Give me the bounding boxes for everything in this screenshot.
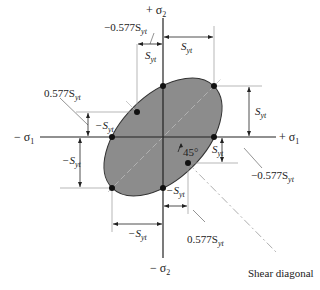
label-neg-syt-horizontal: −Syt [128,228,147,242]
label-neg-0577-top: −0.577Syt [104,22,147,36]
pos-sigma2-label: + σ2 [146,4,166,19]
label-syt-sigma1: Syt [212,144,223,158]
label-syt-top: Syt [181,41,192,55]
neg-sigma1-label: − σ1 [14,131,34,146]
label-neg-0577-right: −0.577Syt [251,170,294,184]
neg-sigma2-label: − σ2 [150,262,170,277]
pos-sigma1-label: + σ1 [279,131,299,146]
shear-diagonal-label: Shear diagonal [248,268,314,279]
label-syt-sigma2: Syt [145,50,156,64]
label-0577-bottom: 0.577Syt [187,234,224,248]
label-0577-left: 0.577Syt [44,88,81,102]
label-neg-syt-vertical: −Syt [62,155,81,169]
label-neg-syt-left: −Syt [95,120,114,134]
distortion-energy-ellipse-diagram [0,0,320,290]
label-45-degree: 45° [183,147,198,158]
label-syt-right: Syt [255,106,266,120]
label-neg-syt-bottom: −Syt [166,185,185,199]
